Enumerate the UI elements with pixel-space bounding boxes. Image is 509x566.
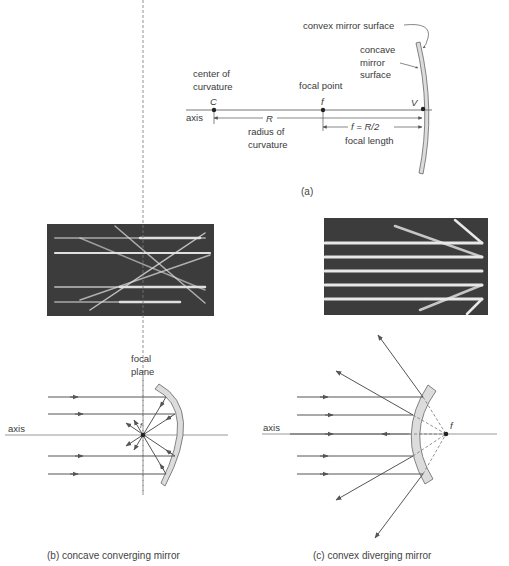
center-of-curvature-label: center of [193, 68, 230, 79]
concave-surface-label-2: mirror [360, 57, 385, 68]
caption-b: (b) concave converging mirror [47, 550, 180, 561]
radius-of-curvature-label-2: curvature [248, 139, 288, 150]
focal-plane-label: focal [131, 353, 151, 364]
caption-a: (a) [301, 186, 313, 197]
virtual-focal-point-c [444, 432, 449, 437]
f-label-c: f [450, 420, 454, 431]
center-of-curvature-label-2: curvature [193, 81, 233, 92]
R-label: R [266, 113, 273, 124]
mirror-optics-diagram: convex mirror surface concave mirror sur… [0, 0, 509, 566]
focal-plane-label-2: plane [131, 366, 154, 377]
V-label: V [411, 97, 419, 108]
concave-surface-label: concave [360, 44, 395, 55]
f-label-b: f [140, 422, 143, 429]
C-label: C [210, 96, 217, 107]
vertex-point-V [421, 107, 425, 111]
photo-convex [324, 218, 488, 315]
f-label: f [321, 96, 325, 107]
photo-concave [47, 224, 214, 316]
axis-label-b: axis [8, 423, 25, 434]
concave-surface-label-3: surface [360, 69, 391, 80]
panel-a: convex mirror surface concave mirror sur… [186, 20, 432, 197]
concave-leader-line [400, 63, 418, 68]
focal-point-f [321, 108, 325, 112]
center-point-C [212, 108, 216, 112]
focal-point-label: focal point [299, 80, 343, 91]
axis-label-c: axis [263, 422, 280, 433]
convex-surface-label: convex mirror surface [303, 20, 394, 31]
f-equals-R-over-2-label: f = R/2 [351, 121, 380, 132]
focal-point-b [141, 433, 146, 438]
axis-label-a: axis [186, 112, 203, 123]
focal-length-label: focal length [345, 135, 394, 146]
panel-c: axis f (c) convex diverging mirror [262, 335, 497, 561]
caption-c: (c) convex diverging mirror [313, 550, 432, 561]
radius-of-curvature-label: radius of [248, 126, 285, 137]
